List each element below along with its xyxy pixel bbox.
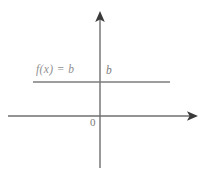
y-intercept-label: b (106, 65, 112, 77)
origin-label: 0 (90, 117, 96, 128)
graph-canvas (0, 0, 207, 175)
function-equation-label: f(x) = b (36, 64, 74, 76)
constant-function-figure: f(x) = b b 0 (0, 0, 207, 175)
